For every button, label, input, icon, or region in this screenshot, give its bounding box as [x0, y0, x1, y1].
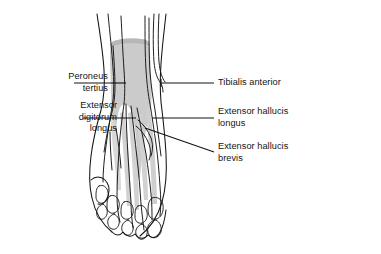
label-extensor-hallucis-brevis: Extensor hallucis brevis — [218, 141, 288, 164]
foot-anatomy-illustration — [0, 0, 381, 254]
label-extensor-hallucis-longus-line1: Extensor hallucis — [218, 106, 288, 118]
tibialis-anterior-tendon-edge — [158, 14, 165, 82]
label-peroneus-tertius: Peroneus tertius — [68, 71, 108, 94]
label-extensor-digitorum-longus-line2: digitorum — [79, 112, 117, 124]
label-extensor-hallucis-longus: Extensor hallucis longus — [218, 106, 288, 129]
label-extensor-digitorum-longus-line3: longus — [79, 123, 117, 135]
toe-1-distal — [148, 220, 162, 238]
toe-4-distal — [108, 214, 120, 229]
label-extensor-hallucis-brevis-line2: brevis — [218, 153, 288, 165]
toe-3-distal — [122, 220, 134, 235]
label-extensor-digitorum-longus-line1: Extensor — [79, 100, 117, 112]
label-peroneus-tertius-line1: Peroneus — [68, 71, 108, 83]
label-tibialis-anterior: Tibialis anterior — [218, 77, 281, 89]
toe-5-outline — [96, 185, 108, 203]
anatomy-figure: Peroneus tertius Extensor digitorum long… — [0, 0, 381, 254]
toe-5-distal — [97, 204, 108, 219]
label-extensor-hallucis-brevis-line1: Extensor hallucis — [218, 141, 288, 153]
label-peroneus-tertius-line2: tertius — [68, 83, 108, 95]
label-extensor-hallucis-longus-line2: longus — [218, 118, 288, 130]
edb-fan-2 — [110, 132, 112, 170]
label-tibialis-anterior-line1: Tibialis anterior — [218, 77, 281, 89]
label-extensor-digitorum-longus: Extensor digitorum longus — [79, 100, 117, 135]
